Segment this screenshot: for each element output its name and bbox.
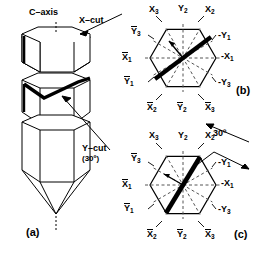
hex-b-label-top-mid: Y2 [178, 4, 188, 13]
hex-c-label-upper-right-diag: -Y1 [218, 158, 231, 167]
angle-label-30deg: 30º [213, 129, 226, 138]
angle-ray-lower-arrowhead [241, 164, 249, 169]
hex-c-label-top-mid: Y2 [178, 131, 188, 140]
hex-b-label-bottom-mid: Y2 [177, 102, 187, 112]
hex-c-label-top-left: X3 [149, 131, 159, 140]
x-cut-label: X–cut [79, 16, 104, 25]
hex-b-label-lower-right-diag: -Y3 [218, 78, 231, 87]
hex-b-label-bottom-right: X3 [205, 102, 215, 112]
hex-b-label-left: X1 [122, 52, 132, 62]
hexagon-b [145, 24, 221, 92]
y-cut-label: Y–cut [82, 144, 107, 153]
hex-c-label-upper-left-diag: Y3 [131, 153, 141, 163]
hex-b-label-upper-left-diag: Y3 [131, 26, 141, 36]
hex-b-label-right: -X1 [221, 52, 234, 61]
hex-b-label-lower-left-diag: Y1 [124, 76, 134, 86]
crystal-low-edges [40, 130, 74, 182]
hex-c-label-lower-left-diag: Y1 [124, 203, 134, 213]
crystal-low-body [22, 122, 90, 182]
hex-b-label-upper-right-diag: -Y1 [218, 31, 231, 40]
hex-c-label-left: X1 [122, 179, 132, 189]
hex-b-label-top-left: X3 [149, 5, 159, 14]
panel-label-a: (a) [26, 226, 39, 238]
hex-c-label-bottom-right: X3 [205, 229, 215, 239]
y-cut-angle-label: (30º) [82, 155, 99, 163]
crystal-low-top-face [22, 115, 90, 130]
hex-c-label-lower-right-diag: -Y3 [218, 205, 231, 214]
hex-b-label-top-right: X2 [205, 5, 215, 14]
hexagon-c [145, 151, 221, 219]
y-cut-arrowhead [62, 96, 71, 102]
c-axis-label: C–axis [29, 8, 58, 17]
crystal-drawing [22, 14, 122, 232]
figure-root: C–axis X–cut Y–cut (30º) (a) X3 Y2 X2 Y3… [0, 0, 256, 254]
hex-c-label-bottom-left: X2 [147, 229, 157, 239]
panel-label-b: (b) [236, 84, 250, 96]
hex-b-label-bottom-left: X2 [147, 102, 157, 112]
hex-c-label-bottom-mid: Y2 [177, 229, 187, 239]
hex-c-label-right: -X1 [221, 179, 234, 188]
panel-label-c: (c) [234, 228, 247, 240]
